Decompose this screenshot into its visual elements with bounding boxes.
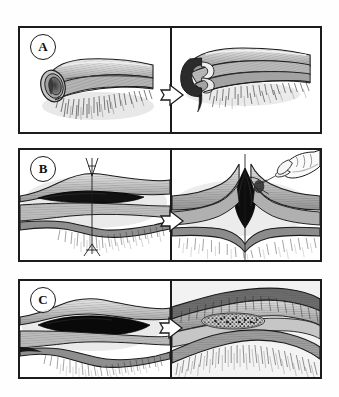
panel-c-right-cell: [172, 281, 320, 377]
panel-c: C: [18, 279, 322, 379]
panel-a: A: [18, 26, 322, 134]
hand-illustration: [276, 150, 320, 178]
panel-b-right-cell: [172, 150, 320, 260]
panel-b: B: [18, 148, 322, 262]
panel-a-right-artwork: [172, 28, 320, 132]
panel-b-label: B: [30, 156, 56, 182]
figure-container: A: [0, 0, 339, 397]
panel-c-label: C: [30, 287, 56, 313]
panel-c-right-artwork: [172, 281, 320, 377]
panel-a-label: A: [30, 34, 56, 60]
panel-a-right-cell: [172, 28, 320, 132]
panel-b-right-artwork: [172, 150, 320, 260]
